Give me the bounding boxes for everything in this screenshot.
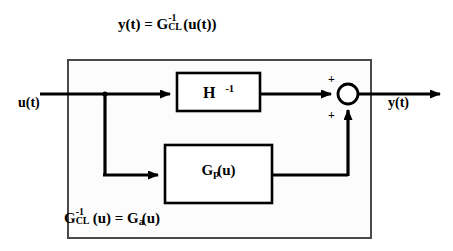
inverse-model-symbol: H	[203, 84, 215, 101]
summing-junction	[338, 84, 358, 104]
equation-rhs: (u(t))	[183, 16, 216, 32]
summing-junction-plus-bottom: +	[328, 109, 335, 121]
plant-argument: (u)	[217, 162, 235, 178]
bottom-eq-g1: G	[64, 210, 76, 226]
equation-subscript: CL	[168, 22, 182, 32]
bottom-eq-mid: (u) =	[93, 210, 127, 226]
closed-loop-inverse-equation: y(t) = G-1CL(u(t))	[118, 14, 217, 32]
bottom-eq-g2-subscript: a	[139, 216, 144, 227]
block-diagram-canvas: y(t) = G-1CL(u(t)) G-1CL(u) = Ga(u) H-1 …	[0, 0, 453, 251]
plant-symbol: G	[201, 162, 213, 178]
equation-g-symbol: G	[157, 16, 169, 32]
output-label: y(t)	[388, 96, 409, 110]
plant-subscript: p	[213, 168, 219, 179]
bottom-eq-g2: G	[127, 210, 139, 226]
plant-block-label: Gp(u)	[165, 160, 272, 178]
inverse-model-superscript: -1	[226, 83, 234, 94]
equation-lhs: y(t) =	[118, 16, 157, 32]
bottom-eq-g1-subscript: CL	[76, 216, 90, 226]
summing-junction-plus-top: +	[328, 73, 335, 85]
inverse-model-block-label: H-1	[177, 84, 260, 101]
bottom-eq-tail: (u)	[142, 210, 160, 226]
equivalence-equation: G-1CL(u) = Ga(u)	[64, 208, 160, 226]
input-label: u(t)	[18, 96, 40, 110]
